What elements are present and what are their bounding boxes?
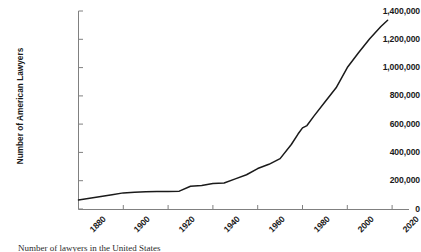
data-series-line — [79, 20, 388, 200]
y-tick-marks — [79, 11, 84, 209]
caption-strip: Number of lawyers in the United States — [0, 243, 420, 252]
figure-caption: Number of lawyers in the United States — [18, 243, 160, 252]
x-tick-marks — [79, 205, 393, 210]
